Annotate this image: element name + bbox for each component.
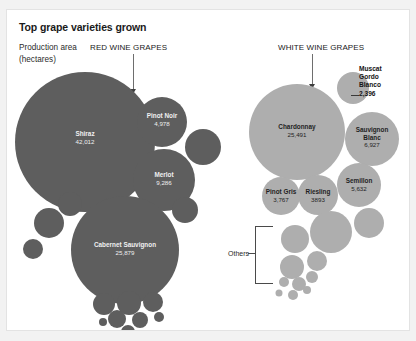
bubble-red-other-b — [34, 208, 64, 238]
muscat-value: 2,396 — [359, 90, 376, 97]
bubble-pinot-gris — [262, 177, 300, 215]
bubble-riesling — [298, 175, 338, 215]
label-others: Others — [228, 250, 249, 257]
bubble-red-other-e — [172, 197, 198, 223]
bubble-white-other-i — [288, 290, 298, 300]
bubble-red-other-a — [185, 129, 221, 165]
bubble-red-other-k — [121, 325, 135, 331]
bubble-white-other-a — [310, 211, 352, 253]
bubble-semillon — [337, 163, 381, 207]
bubble-white-other-c — [281, 225, 309, 253]
bubble-cabernet-sauvignon — [71, 196, 179, 304]
bubble-sauvignon-blanc — [345, 112, 399, 166]
others-leader-line — [248, 253, 255, 254]
bubble-white-other-f — [306, 271, 318, 283]
muscat-name-line-2: Gordo — [359, 73, 379, 80]
label-muscat-gordo-blanco: Muscat Gordo Blanco 2,396 — [359, 65, 382, 98]
bubble-shiraz — [15, 72, 155, 212]
muscat-name-line-3: Blanco — [359, 81, 381, 88]
bubble-white-other-h — [279, 277, 289, 287]
bubble-red-other-d — [58, 192, 82, 216]
bubble-white-other-e — [280, 255, 304, 279]
bubble-red-other-j — [132, 312, 148, 328]
bubble-red-other-i — [108, 310, 126, 328]
bubble-chardonnay — [249, 84, 345, 180]
others-bracket — [255, 226, 273, 284]
bubble-red-other-c — [23, 239, 43, 259]
muscat-name-line-1: Muscat — [359, 65, 382, 72]
bubble-red-other-f — [93, 293, 115, 315]
bubble-chart-canvas — [7, 10, 410, 331]
bubble-white-other-d — [307, 251, 327, 271]
bubble-red-other-m — [99, 318, 107, 326]
bubble-white-other-j — [303, 286, 311, 294]
bubble-red-other-h — [143, 292, 163, 312]
bubble-pinot-noir — [137, 97, 187, 147]
bubble-white-other-b — [354, 208, 384, 238]
bubble-white-other-k — [276, 290, 283, 297]
bubble-red-other-l — [154, 312, 164, 322]
muscat-leader-line — [351, 95, 359, 96]
infographic-panel: Top grape varieties grown Production are… — [6, 9, 410, 331]
